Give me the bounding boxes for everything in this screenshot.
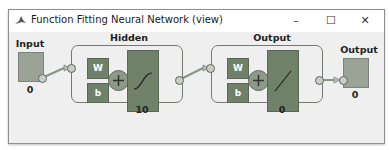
output-layer-label: Output <box>247 32 297 43</box>
network-view-window: Function Fitting Neural Network (view) –… <box>8 9 385 144</box>
linear-icon <box>268 51 298 111</box>
hidden-output-node <box>175 76 184 85</box>
output-block <box>343 58 369 88</box>
window-title: Function Fitting Neural Network (view) <box>31 14 223 25</box>
input-label: Input <box>15 38 45 49</box>
close-button[interactable]: ✕ <box>352 11 378 31</box>
input-node <box>38 74 47 83</box>
hidden-weight-block: W <box>87 58 109 79</box>
output-linear-block <box>267 50 299 112</box>
output-bias-block: b <box>227 83 249 103</box>
sigmoid-icon <box>128 51 158 111</box>
hidden-layer-size: 10 <box>127 104 157 115</box>
connection-wires <box>9 32 384 143</box>
minimize-button[interactable]: – <box>283 11 309 31</box>
output-node <box>339 76 348 85</box>
hidden-input-node <box>67 64 76 73</box>
hidden-bias-block: b <box>87 83 109 103</box>
output-layer-output-node <box>315 76 324 85</box>
output-size: 0 <box>343 89 367 100</box>
hidden-sigmoid-block <box>127 50 159 112</box>
output-label: Output <box>339 44 379 55</box>
input-size: 0 <box>18 84 42 95</box>
output-layer-input-node <box>206 64 215 73</box>
output-weight-block: W <box>227 58 249 79</box>
hidden-layer-label: Hidden <box>104 32 154 43</box>
network-diagram: Input 0 Hidden W b 10 Output W b 0 <box>9 32 384 143</box>
output-sum-icon <box>248 70 269 91</box>
maximize-button[interactable]: ☐ <box>318 11 344 31</box>
output-layer-size: 0 <box>267 104 297 115</box>
matlab-icon <box>15 15 26 26</box>
title-bar[interactable]: Function Fitting Neural Network (view) –… <box>9 10 384 32</box>
hidden-sum-icon <box>108 70 129 91</box>
